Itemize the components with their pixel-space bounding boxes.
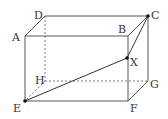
label-h: H <box>35 74 45 87</box>
label-g: G <box>150 78 159 91</box>
label-d: D <box>34 9 43 22</box>
prism-diagram: A D B C X H G E F <box>0 0 168 119</box>
label-a: A <box>11 31 21 44</box>
label-b: B <box>118 23 126 36</box>
label-f: F <box>130 102 138 115</box>
segment-xc <box>127 16 148 58</box>
point-c <box>146 14 150 18</box>
point-x <box>125 56 129 60</box>
label-x: X <box>130 56 138 69</box>
label-e: E <box>13 102 21 115</box>
point-e <box>23 99 27 103</box>
label-c: C <box>151 9 159 22</box>
edge-fg <box>128 81 148 101</box>
edge-bc <box>128 16 148 36</box>
